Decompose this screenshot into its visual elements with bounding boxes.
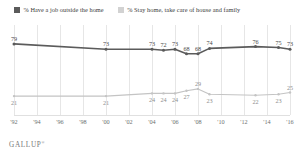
data-value-label: 68 (195, 45, 201, 52)
data-point-marker (162, 92, 164, 94)
data-value-label: 27 (184, 93, 190, 100)
data-point-marker (289, 48, 292, 51)
x-tick-label: '96 (56, 118, 63, 125)
brand-text: GALLUP (9, 141, 42, 149)
x-tick-label: '08 (194, 118, 201, 125)
plot-area: 7973737273686874767573212124242427292322… (14, 25, 290, 115)
data-value-label: 79 (11, 35, 17, 42)
gridline (290, 25, 291, 115)
x-tick-label: '94 (33, 118, 40, 125)
data-value-label: 21 (11, 99, 17, 106)
data-value-label: 24 (149, 96, 155, 103)
data-value-label: 21 (103, 99, 109, 106)
data-point-marker (277, 93, 279, 95)
data-value-label: 25 (287, 84, 293, 91)
data-point-marker (289, 91, 291, 93)
gallup-line-chart: % Have a job outside the home % Stay hom… (0, 0, 304, 159)
x-tick-label: '16 (286, 118, 293, 125)
data-point-marker (13, 42, 16, 45)
data-value-label: 73 (287, 40, 293, 47)
data-point-marker (151, 48, 154, 51)
data-point-marker (105, 95, 107, 97)
data-value-label: 73 (149, 40, 155, 47)
data-value-label: 72 (161, 41, 167, 48)
data-value-label: 23 (207, 97, 213, 104)
data-value-label: 24 (172, 96, 178, 103)
data-point-marker (185, 52, 188, 55)
data-value-label: 29 (195, 80, 201, 87)
gallup-branding: GALLUP® (9, 140, 45, 149)
registered-mark: ® (42, 140, 45, 145)
data-point-marker (151, 92, 153, 94)
data-point-marker (185, 90, 187, 92)
data-point-marker (105, 48, 108, 51)
data-value-label: 68 (184, 45, 190, 52)
chart-legend: % Have a job outside the home % Stay hom… (14, 6, 240, 13)
x-tick-label: '98 (79, 118, 86, 125)
data-point-marker (174, 92, 176, 94)
data-point-marker (197, 52, 200, 55)
data-value-label: 73 (172, 40, 178, 47)
data-value-label: 74 (207, 39, 213, 46)
x-tick-label: '06 (171, 118, 178, 125)
data-point-marker (174, 48, 177, 51)
x-tick-label: '14 (263, 118, 270, 125)
x-tick-label: '00 (102, 118, 109, 125)
data-point-marker (208, 93, 210, 95)
data-point-marker (277, 46, 280, 49)
data-point-marker (254, 45, 257, 48)
x-axis-ticks: '92'94'96'98'00'02'04'06'08'10'12'14'16 (14, 118, 290, 130)
data-value-label: 73 (103, 40, 109, 47)
legend-label-home: % Stay home, take care of house and fami… (127, 6, 240, 13)
legend-label-job: % Have a job outside the home (24, 6, 104, 13)
legend-item-job: % Have a job outside the home (14, 6, 104, 13)
data-value-label: 23 (276, 97, 282, 104)
x-tick-label: '10 (217, 118, 224, 125)
data-value-label: 22 (253, 98, 259, 105)
axis-baseline (14, 115, 290, 116)
x-tick-label: '12 (240, 118, 247, 125)
data-point-marker (162, 49, 165, 52)
data-value-label: 24 (161, 96, 167, 103)
x-tick-label: '92 (10, 118, 17, 125)
data-point-marker (13, 95, 15, 97)
data-point-marker (197, 88, 199, 90)
legend-swatch-dark (14, 7, 20, 13)
legend-swatch-light (118, 7, 124, 13)
data-value-label: 76 (253, 38, 259, 45)
legend-item-home: % Stay home, take care of house and fami… (118, 6, 241, 13)
data-point-marker (208, 47, 211, 50)
data-value-label: 75 (276, 39, 282, 46)
data-point-marker (254, 94, 256, 96)
x-tick-label: '04 (148, 118, 155, 125)
x-tick-label: '02 (125, 118, 132, 125)
